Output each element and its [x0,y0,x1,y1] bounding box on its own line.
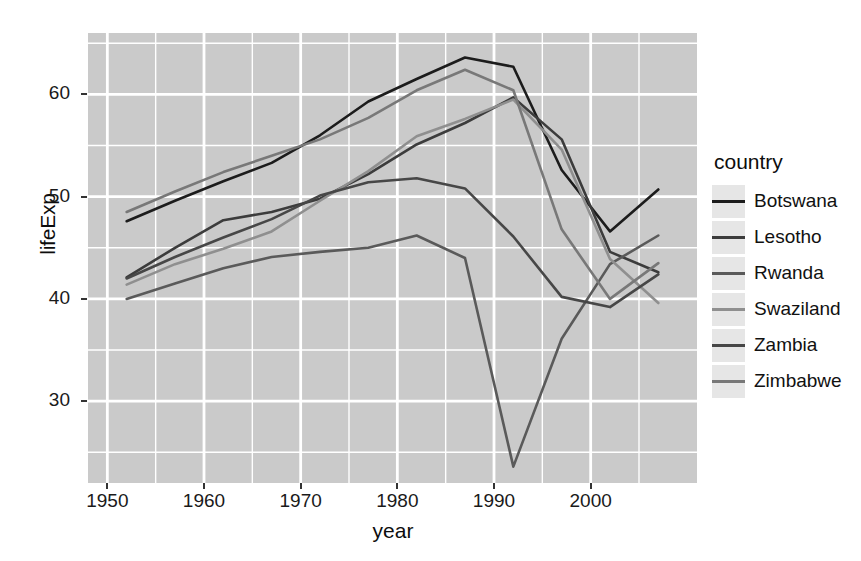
legend-item-label: Swaziland [754,298,841,320]
plot-panel [88,33,697,483]
x-tick-mark [590,483,592,489]
legend-item-lesotho[interactable]: Lesotho [712,219,842,255]
legend: country BotswanaLesothoRwandaSwazilandZa… [712,150,842,399]
legend-item-rwanda[interactable]: Rwanda [712,255,842,291]
series-line [127,236,659,467]
legend-title: country [714,150,842,174]
y-tick-mark [81,196,87,198]
x-tick-mark [203,483,205,489]
legend-item-label: Zambia [754,334,817,356]
legend-item-label: Zimbabwe [754,370,842,392]
series-line [127,70,659,299]
legend-key-swatch [712,185,745,218]
x-tick-label: 1960 [164,490,244,512]
legend-item-label: Botswana [754,190,837,212]
legend-item-label: Rwanda [754,262,824,284]
legend-item-zambia[interactable]: Zambia [712,327,842,363]
series-line [127,58,659,232]
legend-item-zimbabwe[interactable]: Zimbabwe [712,363,842,399]
legend-key-swatch [712,257,745,290]
x-tick-mark [396,483,398,489]
legend-items: BotswanaLesothoRwandaSwazilandZambiaZimb… [712,183,842,399]
x-tick-label: 1990 [454,490,534,512]
legend-key-swatch [712,293,745,326]
x-tick-label: 1980 [357,490,437,512]
x-tick-label: 1950 [67,490,147,512]
legend-key-swatch [712,221,745,254]
legend-line-icon [712,380,745,383]
legend-line-icon [712,272,745,275]
legend-key-swatch [712,329,745,362]
y-tick-mark [81,298,87,300]
legend-line-icon [712,200,745,203]
x-axis-title: year [88,519,698,543]
y-tick-label: 40 [24,287,70,309]
legend-item-botswana[interactable]: Botswana [712,183,842,219]
legend-item-label: Lesotho [754,226,822,248]
legend-item-swaziland[interactable]: Swaziland [712,291,842,327]
legend-line-icon [712,236,745,239]
y-tick-label: 50 [24,185,70,207]
y-tick-label: 30 [24,389,70,411]
x-tick-mark [493,483,495,489]
y-tick-label: 60 [24,82,70,104]
y-axis-title: lifeExp [36,154,60,294]
line-chart: lifeExp 30405060 19501960197019801990200… [0,0,861,561]
y-tick-mark [81,93,87,95]
legend-line-icon [712,344,745,347]
plot-svg [88,33,697,483]
x-tick-mark [300,483,302,489]
legend-key-swatch [712,365,745,398]
x-tick-label: 2000 [551,490,631,512]
x-tick-label: 1970 [261,490,341,512]
legend-line-icon [712,308,745,311]
y-tick-mark [81,400,87,402]
x-tick-mark [106,483,108,489]
